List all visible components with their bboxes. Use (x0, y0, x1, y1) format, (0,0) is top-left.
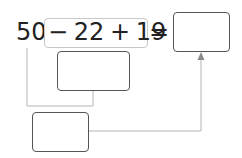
arrow-up-icon (198, 52, 205, 60)
result-box[interactable] (173, 12, 230, 52)
equals-sign: = (149, 20, 169, 44)
start-value: 50 (16, 20, 47, 44)
intermediate-box[interactable] (57, 51, 130, 91)
final-step-box[interactable] (32, 112, 89, 152)
math-diagram: 50 − 22 + 19 = (0, 0, 242, 158)
